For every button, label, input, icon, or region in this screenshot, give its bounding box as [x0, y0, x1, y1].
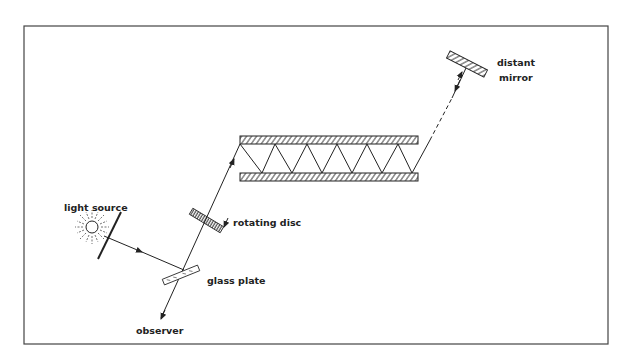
label-glass-plate: glass plate — [207, 275, 266, 286]
label-observer: observer — [136, 325, 184, 336]
label-rotating-disc: rotating disc — [233, 217, 301, 228]
optical-diagram: light source rotating disc glass plate o… — [0, 0, 628, 362]
upper-mirror — [240, 136, 418, 144]
label-mirror: mirror — [499, 72, 533, 83]
label-light-source: light source — [64, 202, 128, 213]
lower-mirror — [240, 173, 418, 181]
label-distant: distant — [497, 57, 535, 68]
